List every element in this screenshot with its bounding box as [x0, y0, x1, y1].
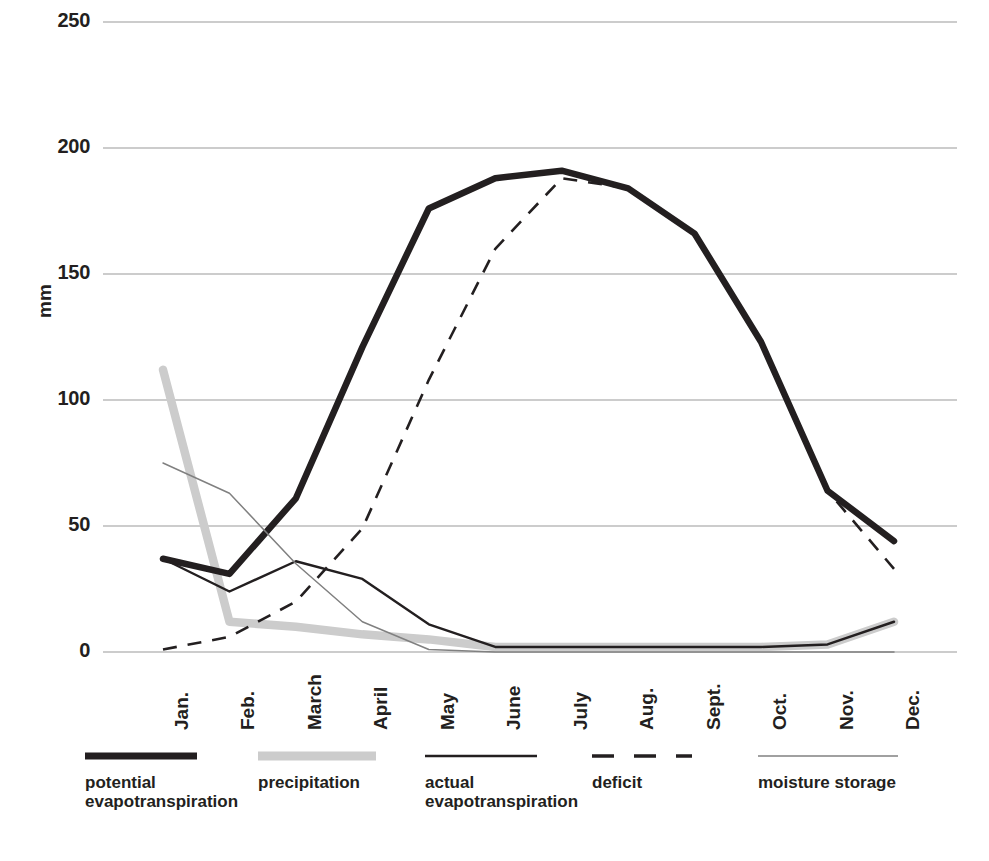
x-tick-label-dec: Dec. — [902, 690, 924, 730]
chart-legend: potential evapotranspirationprecipitatio… — [0, 748, 989, 858]
x-tick-label-sept: Sept. — [703, 684, 725, 730]
legend-label: actual evapotranspiration — [425, 773, 578, 811]
series-line-precipitation — [163, 370, 894, 647]
x-tick-label-jan: Jan. — [171, 692, 193, 730]
plot-area — [0, 0, 989, 861]
x-tick-label-june: June — [503, 686, 525, 730]
x-tick-label-oct: Oct. — [769, 693, 791, 730]
x-tick-label-april: April — [370, 687, 392, 730]
series-line-deficit — [163, 178, 894, 649]
thick-gray-line-icon — [258, 748, 376, 764]
legend-label: precipitation — [258, 773, 376, 792]
series-line-potential-evapotranspiration — [163, 171, 894, 574]
legend-item-deficit[interactable]: deficit — [592, 748, 692, 792]
x-tick-label-nov: Nov. — [836, 690, 858, 730]
legend-item-actual-evapotranspiration[interactable]: actual evapotranspiration — [425, 748, 578, 811]
series-lines — [163, 171, 894, 652]
x-tick-label-aug: Aug. — [636, 688, 658, 730]
x-tick-label-july: July — [570, 692, 592, 730]
x-tick-label-feb: Feb. — [237, 691, 259, 730]
x-tick-label-may: May — [437, 693, 459, 730]
gridlines — [103, 22, 957, 652]
thick-black-line-icon — [85, 748, 197, 764]
hairline-gray-line-icon — [758, 748, 898, 764]
legend-label: potential evapotranspiration — [85, 773, 238, 811]
dashed-black-line-icon — [592, 748, 692, 764]
legend-label: deficit — [592, 773, 692, 792]
thin-black-line-icon — [425, 748, 537, 764]
series-line-actual-evapotranspiration — [163, 559, 894, 647]
water-balance-chart: mm 250200150100500 Jan.Feb.MarchAprilMay… — [0, 0, 989, 861]
legend-label: moisture storage — [758, 773, 898, 792]
legend-item-precipitation[interactable]: precipitation — [258, 748, 376, 792]
legend-item-potential-evapotranspiration[interactable]: potential evapotranspiration — [85, 748, 238, 811]
x-tick-label-march: March — [304, 674, 326, 730]
legend-item-moisture-storage[interactable]: moisture storage — [758, 748, 898, 792]
